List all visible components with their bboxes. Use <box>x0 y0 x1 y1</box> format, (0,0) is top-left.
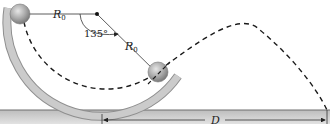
radius-label-diagonal: R0 <box>124 40 138 54</box>
center-point <box>95 12 99 16</box>
radius-label-top: R0 <box>52 8 66 22</box>
ground-slab <box>0 110 330 124</box>
ball-entrance <box>10 4 30 24</box>
curved-tube <box>7 8 178 116</box>
dashed-trajectory <box>24 22 327 110</box>
angle-label: 135° <box>84 28 108 39</box>
projectile-tube-diagram: R0 135° R0 D <box>0 0 330 135</box>
distance-label: D <box>210 114 220 127</box>
ball-exit <box>148 62 168 82</box>
